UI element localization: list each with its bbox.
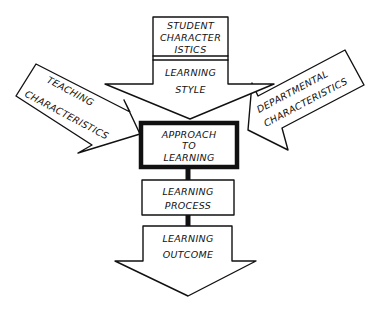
learning-process-box: LEARNING PROCESS — [142, 180, 234, 215]
approach-to-learning-label-3: LEARNING — [163, 152, 214, 163]
student-characteristics-box: STUDENT CHARACTER ISTICS — [153, 17, 228, 56]
approach-to-learning-label-1: APPROACH — [161, 129, 217, 140]
learning-outcome-arrow: LEARNING OUTCOME — [115, 226, 256, 296]
learning-outcome-label-2: OUTCOME — [163, 249, 214, 260]
learning-style-arrow: LEARNING STYLE — [105, 56, 274, 119]
learning-process-label-1: LEARNING — [162, 186, 213, 197]
learning-outcome-label-1: LEARNING — [162, 233, 213, 244]
learning-process-label-2: PROCESS — [165, 200, 211, 211]
student-characteristics-label-2: CHARACTER — [160, 32, 221, 43]
approach-to-learning-box: APPROACH TO LEARNING — [141, 123, 237, 167]
student-characteristics-label-1: STUDENT — [167, 20, 215, 31]
student-characteristics-label-3: ISTICS — [174, 44, 206, 55]
teaching-characteristics-arrow: TEACHING CHARACTERISTICS — [16, 64, 140, 153]
approach-to-learning-diagram: TEACHING CHARACTERISTICS DEPARTMENTAL CH… — [0, 0, 386, 318]
approach-to-learning-label-2: TO — [182, 140, 196, 151]
learning-style-label-2: STYLE — [175, 84, 205, 95]
learning-style-label-1: LEARNING — [165, 67, 216, 78]
departmental-characteristics-arrow: DEPARTMENTAL CHARACTERISTICS — [248, 50, 364, 150]
